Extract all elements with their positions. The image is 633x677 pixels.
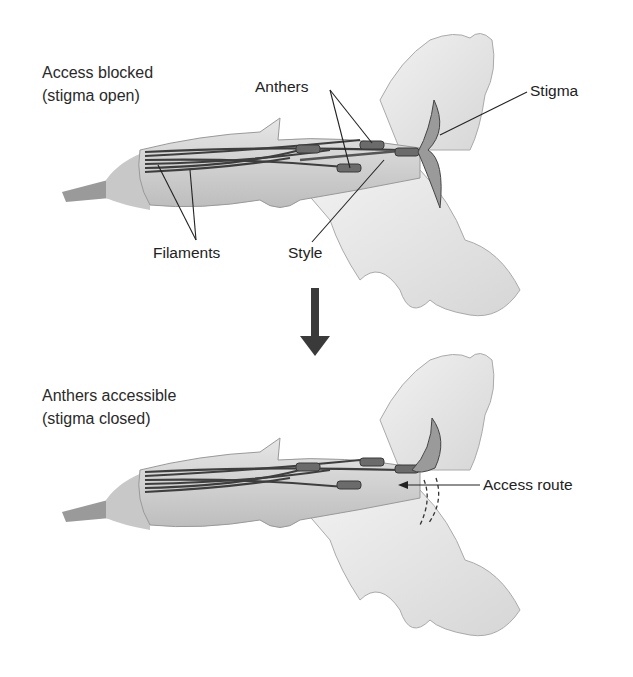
label-filaments: Filaments <box>153 242 220 264</box>
panel-bottom-caption: Anthers accessible (stigma closed) <box>42 384 176 430</box>
label-access-route: Access route <box>483 474 573 496</box>
down-arrow-icon <box>300 288 330 356</box>
label-style: Style <box>288 242 322 264</box>
label-anthers: Anthers <box>255 76 308 98</box>
label-stigma: Stigma <box>530 80 578 102</box>
panel-bottom-state: Anthers accessible <box>42 384 176 407</box>
panel-top-state: Access blocked <box>42 61 153 84</box>
panel-top-caption: Access blocked (stigma open) <box>42 61 153 107</box>
panel-top-condition: (stigma open) <box>42 84 153 107</box>
panel-bottom-condition: (stigma closed) <box>42 407 176 430</box>
